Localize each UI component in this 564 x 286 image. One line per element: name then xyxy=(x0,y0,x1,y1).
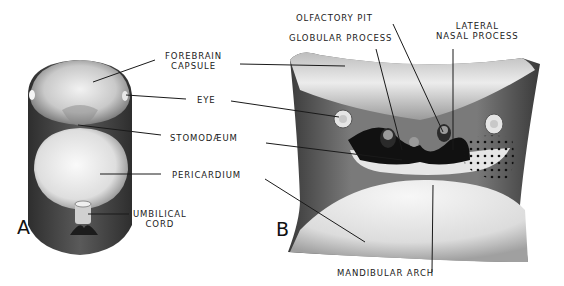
label-pericardium: PERICARDIUM xyxy=(172,170,241,180)
label-mandibular-arch: MANDIBULAR ARCH xyxy=(337,268,434,278)
panel-a-letter: A xyxy=(17,216,30,238)
illustration xyxy=(0,0,564,286)
label-umbilical-cord-line1: UMBILICAL xyxy=(133,209,187,219)
label-eye: EYE xyxy=(197,95,216,105)
embryo-b-face xyxy=(288,52,540,262)
label-globular-process: GLOBULAR PROCESS xyxy=(289,33,392,43)
label-forebrain-capsule-line2: CAPSULE xyxy=(165,61,222,71)
embryo-face-diagram: A B FOREBRAIN CAPSULE EYE STOMODÆUM PERI… xyxy=(0,0,564,286)
label-lateral-nasal-process-line1: LATERAL xyxy=(436,21,519,31)
label-stomodaeum: STOMODÆUM xyxy=(170,133,238,143)
label-lateral-nasal-process-line2: NASAL PROCESS xyxy=(436,31,519,41)
label-umbilical-cord: UMBILICAL CORD xyxy=(133,209,187,229)
label-umbilical-cord-line2: CORD xyxy=(133,219,187,229)
panel-b-letter: B xyxy=(276,218,289,240)
embryo-a xyxy=(28,60,132,255)
label-forebrain-capsule-line1: FOREBRAIN xyxy=(165,51,222,61)
label-forebrain-capsule: FOREBRAIN CAPSULE xyxy=(165,51,222,71)
label-lateral-nasal-process: LATERAL NASAL PROCESS xyxy=(436,21,519,41)
label-olfactory-pit: OLFACTORY PIT xyxy=(296,13,373,23)
